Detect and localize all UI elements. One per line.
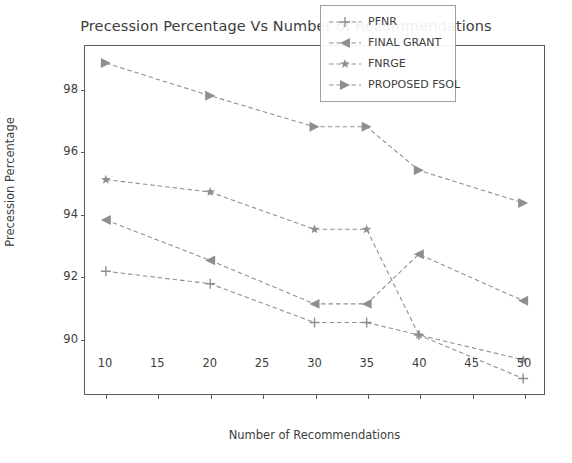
data-point [205,255,215,265]
data-point [414,165,424,175]
y-tick-label: 96 [44,144,78,158]
legend-item[interactable]: FINAL GRANT [327,32,449,53]
x-tick-label: 45 [452,356,492,370]
series-line [106,220,523,304]
x-tick-mark [211,395,212,399]
series-canvas [85,46,544,394]
data-point [310,122,320,132]
data-point [518,198,528,208]
x-tick-mark [368,395,369,399]
y-tick-mark [81,277,85,278]
data-point [101,58,111,68]
x-tick-mark [420,395,421,399]
x-tick-label: 30 [295,356,335,370]
data-point [205,91,215,101]
data-point [310,224,319,233]
x-tick-label: 15 [137,356,177,370]
y-tick-mark [81,152,85,153]
x-tick-label: 40 [399,356,439,370]
x-tick-label: 35 [347,356,387,370]
data-point [205,187,214,196]
y-tick-mark [81,90,85,91]
data-point [518,296,528,306]
x-tick-label: 25 [242,356,282,370]
x-tick-mark [158,395,159,399]
legend-item[interactable]: FNRGE [327,53,449,74]
series-fnrge [101,175,528,364]
series-line [106,180,523,360]
legend-label: PROPOSED FSOL [368,78,460,91]
y-tick-label: 90 [44,332,78,346]
legend: PFNR FINAL GRANT FNRGE PROPOSED FSOL [320,5,456,102]
series-proposed-fsol [101,58,528,208]
x-tick-mark [473,395,474,399]
x-tick-mark [525,395,526,399]
legend-marker-final-grant [327,36,363,50]
y-tick-label: 98 [44,82,78,96]
legend-item[interactable]: PROPOSED FSOL [327,74,449,95]
data-point [205,279,215,289]
legend-label: FINAL GRANT [368,36,441,49]
y-tick-mark [81,340,85,341]
x-axis-label: Number of Recommendations [84,428,545,442]
legend-label: FNRGE [368,57,406,70]
data-point [310,318,320,328]
legend-marker-fnrge [327,57,363,71]
x-tick-mark [106,395,107,399]
legend-label: PFNR [368,15,397,28]
legend-marker-proposed-fsol [327,78,363,92]
y-tick-label: 92 [44,269,78,283]
y-tick-label: 94 [44,207,78,221]
legend-marker-pfnr [327,15,363,29]
plot-area [84,45,545,395]
x-tick-mark [316,395,317,399]
data-point [101,266,111,276]
data-point [101,175,110,184]
x-tick-label: 50 [504,356,544,370]
y-axis-label: Precession Percentage [3,52,17,312]
y-tick-mark [81,215,85,216]
data-point [310,299,320,309]
data-point [101,215,111,225]
chart-title: Precession Percentage Vs Number of Recom… [0,18,572,34]
data-point [362,224,371,233]
legend-item[interactable]: PFNR [327,11,449,32]
data-point [362,318,372,328]
chart-figure: Precession Percentage Vs Number of Recom… [0,0,572,463]
data-point [518,373,528,383]
data-point [362,122,372,132]
series-line [106,63,523,203]
x-tick-label: 10 [85,356,125,370]
data-point [362,299,372,309]
x-tick-mark [263,395,264,399]
y-axis-tick-labels: 9092949698 [44,45,78,395]
x-tick-label: 20 [190,356,230,370]
